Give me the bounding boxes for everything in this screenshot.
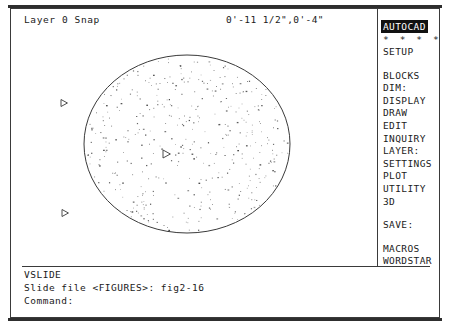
hatch-dot	[190, 149, 191, 150]
hatch-dot	[250, 169, 251, 170]
hatch-dot	[153, 195, 154, 196]
hatch-dot	[218, 177, 219, 178]
hatch-dot	[276, 155, 277, 156]
hatch-dot	[183, 78, 184, 79]
hatch-pattern-dots	[88, 59, 289, 231]
command-line-0: VSLIDE	[11, 268, 439, 281]
hatch-dot	[259, 110, 260, 111]
arrow-marker-3	[62, 210, 68, 217]
hatch-dot	[113, 86, 114, 87]
hatch-dot	[260, 123, 261, 124]
hatch-dot	[228, 69, 229, 70]
hatch-dot	[199, 117, 200, 118]
hatch-dot	[168, 230, 170, 231]
hatch-dot	[189, 178, 190, 179]
menu-item-dim[interactable]: DIM:	[381, 82, 439, 95]
hatch-dot	[145, 80, 146, 81]
hatch-dot	[210, 65, 211, 66]
hatch-dot	[259, 121, 260, 122]
drawing-area[interactable]	[11, 31, 377, 265]
menu-item-inquiry[interactable]: INQUIRY	[381, 133, 439, 146]
hatch-dot	[140, 99, 141, 100]
hatch-dot	[203, 83, 204, 84]
hatch-dot	[198, 183, 200, 184]
hatch-dot	[208, 165, 210, 166]
hatch-dot	[99, 164, 100, 165]
hatch-dot	[210, 199, 211, 200]
hatch-dot	[154, 117, 155, 118]
hatch-dot	[95, 133, 96, 134]
hatch-dot	[193, 158, 195, 159]
menu-item-3d[interactable]: 3D	[381, 196, 439, 209]
hatch-dot	[222, 83, 224, 84]
hatch-dot	[140, 215, 142, 216]
hatch-dot	[116, 89, 117, 90]
menu-separator-gap	[381, 59, 439, 70]
menu-item-edit[interactable]: EDIT	[381, 120, 439, 133]
hatch-dot	[120, 189, 121, 190]
hatch-dot	[201, 217, 202, 218]
hatch-dot	[254, 207, 256, 208]
hatch-dot	[91, 153, 92, 154]
menu-item-utility[interactable]: UTILITY	[381, 183, 439, 196]
hatch-dot	[239, 183, 240, 184]
command-area[interactable]: VSLIDESlide file <FIGURES>: fig2-16Comma…	[11, 268, 439, 316]
hatch-dot	[169, 99, 170, 100]
hatch-dot	[228, 135, 229, 136]
hatch-dot	[156, 176, 157, 177]
hatch-dot	[244, 120, 245, 121]
hatch-dot	[143, 204, 144, 205]
hatch-dot	[203, 163, 204, 164]
hatch-dot	[198, 106, 199, 107]
hatch-dot	[253, 158, 254, 159]
menu-stars-row[interactable]: * * * *	[381, 34, 439, 46]
hatch-dot	[115, 189, 116, 190]
hatch-dot	[158, 61, 159, 62]
drawing-canvas[interactable]	[11, 31, 377, 265]
hatch-dot	[210, 153, 211, 154]
hatch-dot	[229, 130, 230, 131]
hatch-dot	[163, 178, 164, 179]
menu-title-autocad[interactable]: AUTOCAD	[381, 20, 428, 33]
command-lines: VSLIDESlide file <FIGURES>: fig2-16Comma…	[11, 268, 439, 307]
menu-item-layer[interactable]: LAYER:	[381, 145, 439, 158]
menu-item-display[interactable]: DISPLAY	[381, 95, 439, 108]
hatch-dot	[227, 173, 228, 174]
hatch-dot	[212, 91, 213, 92]
hatch-dot	[119, 83, 120, 84]
hatch-dot	[160, 83, 161, 84]
hatch-dot	[171, 160, 172, 161]
menu-item-draw[interactable]: DRAW	[381, 107, 439, 120]
hatch-dot	[122, 197, 123, 198]
menu-item-plot[interactable]: PLOT	[381, 170, 439, 183]
menu-item-macros[interactable]: MACROS	[381, 243, 439, 256]
hatch-dot	[163, 225, 164, 226]
menu-item-save[interactable]: SAVE:	[381, 219, 439, 232]
hatch-dot	[282, 152, 283, 153]
hatch-dot	[169, 115, 170, 116]
hatch-dot	[273, 186, 274, 187]
hatch-dot	[240, 132, 241, 133]
hatch-dot	[215, 114, 216, 115]
hatch-dot	[200, 147, 201, 148]
menu-item-settings[interactable]: SETTINGS	[381, 158, 439, 171]
hatch-dot	[273, 144, 274, 145]
side-screen-menu[interactable]: AUTOCAD * * * * SETUPBLOCKSDIM:DISPLAYDR…	[377, 9, 439, 266]
menu-item-blocks[interactable]: BLOCKS	[381, 70, 439, 83]
hatch-dot	[246, 164, 247, 165]
hatch-dot	[239, 195, 240, 196]
hatch-dot	[274, 108, 275, 109]
hatch-dot	[189, 206, 190, 207]
hatch-dot	[256, 88, 257, 89]
hatch-dot	[150, 204, 151, 205]
ellipse-shape[interactable]	[84, 55, 290, 233]
hatch-dot	[130, 211, 131, 212]
hatch-dot	[115, 173, 116, 174]
hatch-dot	[233, 154, 234, 155]
hatch-dot	[209, 207, 210, 208]
menu-item-setup[interactable]: SETUP	[381, 46, 439, 59]
arrow-marker-1	[61, 100, 67, 107]
hatch-dot	[274, 158, 275, 159]
hatch-dot	[233, 87, 234, 88]
hatch-dot	[223, 147, 224, 148]
